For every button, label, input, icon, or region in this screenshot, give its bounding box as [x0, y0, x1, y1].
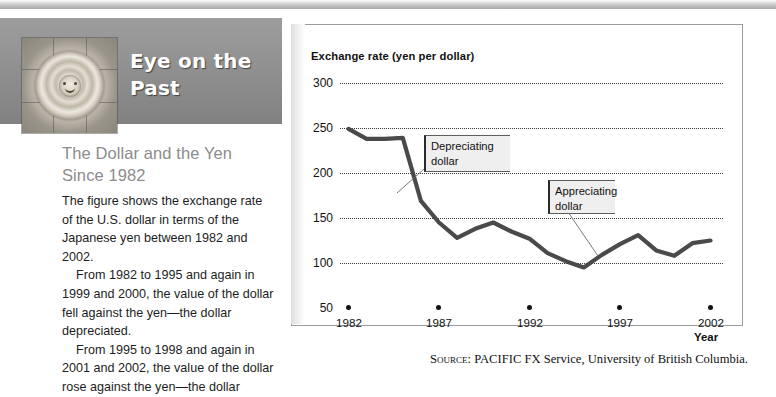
series-line-yen-per-dollar: [349, 129, 711, 268]
source-label: Source:: [430, 352, 471, 366]
leader-line-depreciating: [397, 169, 424, 193]
source-text: PACIFIC FX Service, University of Britis…: [474, 352, 748, 366]
callout-depreciating-dollar: Depreciatingdollar: [424, 135, 510, 172]
leader-line-appreciating: [568, 212, 598, 256]
source-note: Source: PACIFIC FX Service, University o…: [430, 352, 748, 367]
callout-appreciating-dollar: Appreciatingdollar: [548, 180, 615, 214]
